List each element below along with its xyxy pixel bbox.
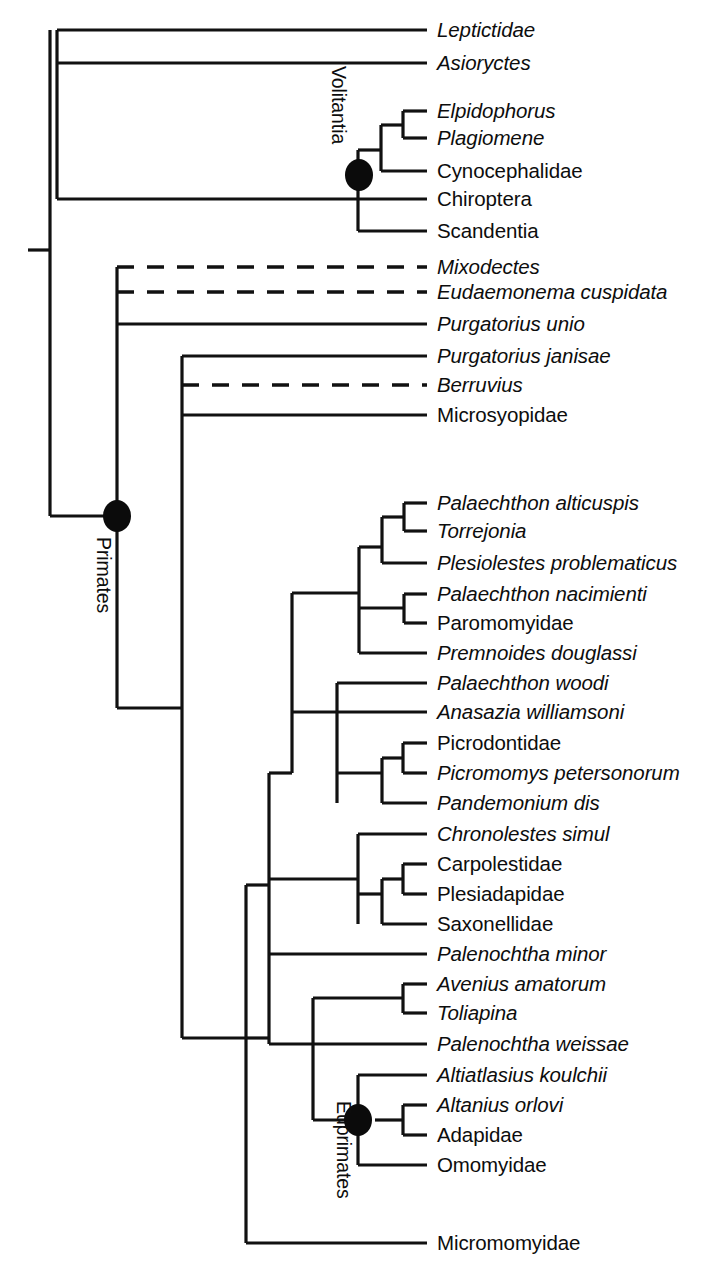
taxon-label-microsyopidae: Microsyopidae xyxy=(437,405,568,426)
taxon-label-altiatlasius-koulchii: Altiatlasius koulchii xyxy=(437,1065,607,1086)
taxon-label-palaechthon-alticuspis: Palaechthon alticuspis xyxy=(437,493,639,514)
clade-label-volitantia: Volitantia xyxy=(329,66,349,144)
taxon-label-palenochtha-minor: Palenochtha minor xyxy=(437,944,606,965)
taxon-label-berruvius: Berruvius xyxy=(437,375,523,396)
taxon-label-palaechthon-woodi: Palaechthon woodi xyxy=(437,673,609,694)
taxon-label-palenochtha-weissae: Palenochtha weissae xyxy=(437,1034,629,1055)
taxon-label-eudaemonema-cuspidata: Eudaemonema cuspidata xyxy=(437,282,667,303)
taxon-label-palaechthon-nacimienti: Palaechthon nacimienti xyxy=(437,584,647,605)
taxon-label-leptictidae: Leptictidae xyxy=(437,20,535,41)
internal-branch-group xyxy=(28,30,404,1243)
taxon-label-asioryctes: Asioryctes xyxy=(437,53,531,74)
taxon-label-anasazia-williamsoni: Anasazia williamsoni xyxy=(437,702,624,723)
taxon-label-plagiomene: Plagiomene xyxy=(437,128,544,149)
taxon-label-scandentia: Scandentia xyxy=(437,221,539,242)
taxon-label-premnoides-douglassi: Premnoides douglassi xyxy=(437,643,637,664)
taxon-label-paromomyidae: Paromomyidae xyxy=(437,613,574,634)
taxon-label-adapidae: Adapidae xyxy=(437,1125,523,1146)
taxon-label-omomyidae: Omomyidae xyxy=(437,1155,547,1176)
clade-label-primates: Primates xyxy=(94,537,114,613)
taxon-label-elpidophorus: Elpidophorus xyxy=(437,101,555,122)
clade-label-euprimates: Euprimates xyxy=(334,1101,354,1199)
taxon-label-picrodontidae: Picrodontidae xyxy=(437,733,561,754)
taxon-label-micromomyidae: Micromomyidae xyxy=(437,1233,580,1254)
taxon-label-picromomys-petersonorum: Picromomys petersonorum xyxy=(437,763,680,784)
taxon-label-purgatorius-janisae: Purgatorius janisae xyxy=(437,346,611,367)
node-marker-primates-node xyxy=(103,500,131,532)
taxon-label-torrejonia: Torrejonia xyxy=(437,521,526,542)
taxon-label-plesiadapidae: Plesiadapidae xyxy=(437,884,565,905)
taxon-label-chronolestes-simul: Chronolestes simul xyxy=(437,824,610,845)
taxon-label-cynocephalidae: Cynocephalidae xyxy=(437,161,583,182)
taxon-label-toliapina: Toliapina xyxy=(437,1003,517,1024)
tip-branch-group xyxy=(57,30,427,1243)
taxon-label-carpolestidae: Carpolestidae xyxy=(437,854,562,875)
taxon-label-avenius-amatorum: Avenius amatorum xyxy=(437,974,606,995)
taxon-label-plesiolestes-problematicus: Plesiolestes problematicus xyxy=(437,553,677,574)
taxon-label-mixodectes: Mixodectes xyxy=(437,257,540,278)
taxon-label-purgatorius-unio: Purgatorius unio xyxy=(437,314,585,335)
node-marker-group xyxy=(103,159,373,1136)
cladogram-figure: LeptictidaeAsioryctesElpidophorusPlagiom… xyxy=(0,0,707,1276)
taxon-label-chiroptera: Chiroptera xyxy=(437,189,532,210)
node-marker-volitantia-node xyxy=(345,159,373,191)
taxon-label-altanius-orlovi: Altanius orlovi xyxy=(437,1095,563,1116)
taxon-label-pandemonium-dis: Pandemonium dis xyxy=(437,793,600,814)
taxon-label-saxonellidae: Saxonellidae xyxy=(437,914,553,935)
